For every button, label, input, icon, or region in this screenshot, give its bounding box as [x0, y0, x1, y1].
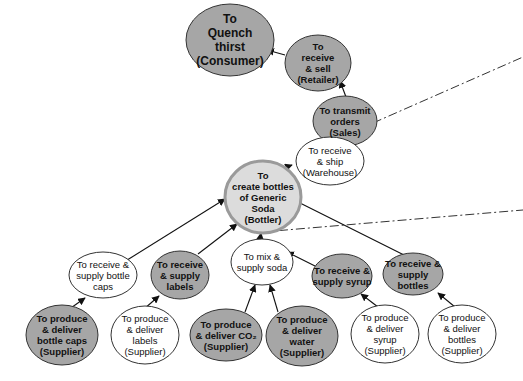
node-caps-label: To receive & supply bottle caps [69, 252, 137, 298]
node-sup-caps-label: To produce & deliver bottle caps (Suppli… [26, 305, 98, 365]
node-sup-syrup-label: To produce & deliver syrup (Supplier) [351, 305, 419, 363]
node-bottles-label: To receive & supply bottles [381, 253, 445, 295]
node-sup-bottles-label: To produce & deliver bottles (Supplier) [428, 305, 496, 363]
node-labels-label: To receive & supply labels [151, 251, 209, 299]
node-sup-water-label: To produce & deliver water (Supplier) [266, 306, 338, 366]
node-mix-label: To mix & supply soda [231, 239, 293, 285]
node-sup-co2-label: To produce & deliver CO₂ (Supplier) [190, 309, 262, 361]
boundary-line-sales [373, 57, 523, 123]
boundary-line-bottler [262, 210, 523, 232]
node-consumer-label: To Quench thirst (Consumer) [186, 4, 274, 76]
edge-bottles-bottler [294, 200, 410, 258]
node-warehouse-label: To receive & ship (Warehouse) [296, 137, 364, 185]
node-sup-labels-label: To produce & deliver labels (Supplier) [111, 306, 179, 364]
edge-supco2-mix [245, 285, 255, 312]
node-syrup-label: To receive & supply syrup [310, 254, 374, 298]
node-retailer-label: To receive & sell (Retailer) [285, 35, 351, 91]
node-bottler-label: To create bottles of Generic Soda (Bottl… [225, 161, 301, 233]
goal-network-diagram: To Quench thirst (Consumer) To receive &… [0, 0, 523, 381]
